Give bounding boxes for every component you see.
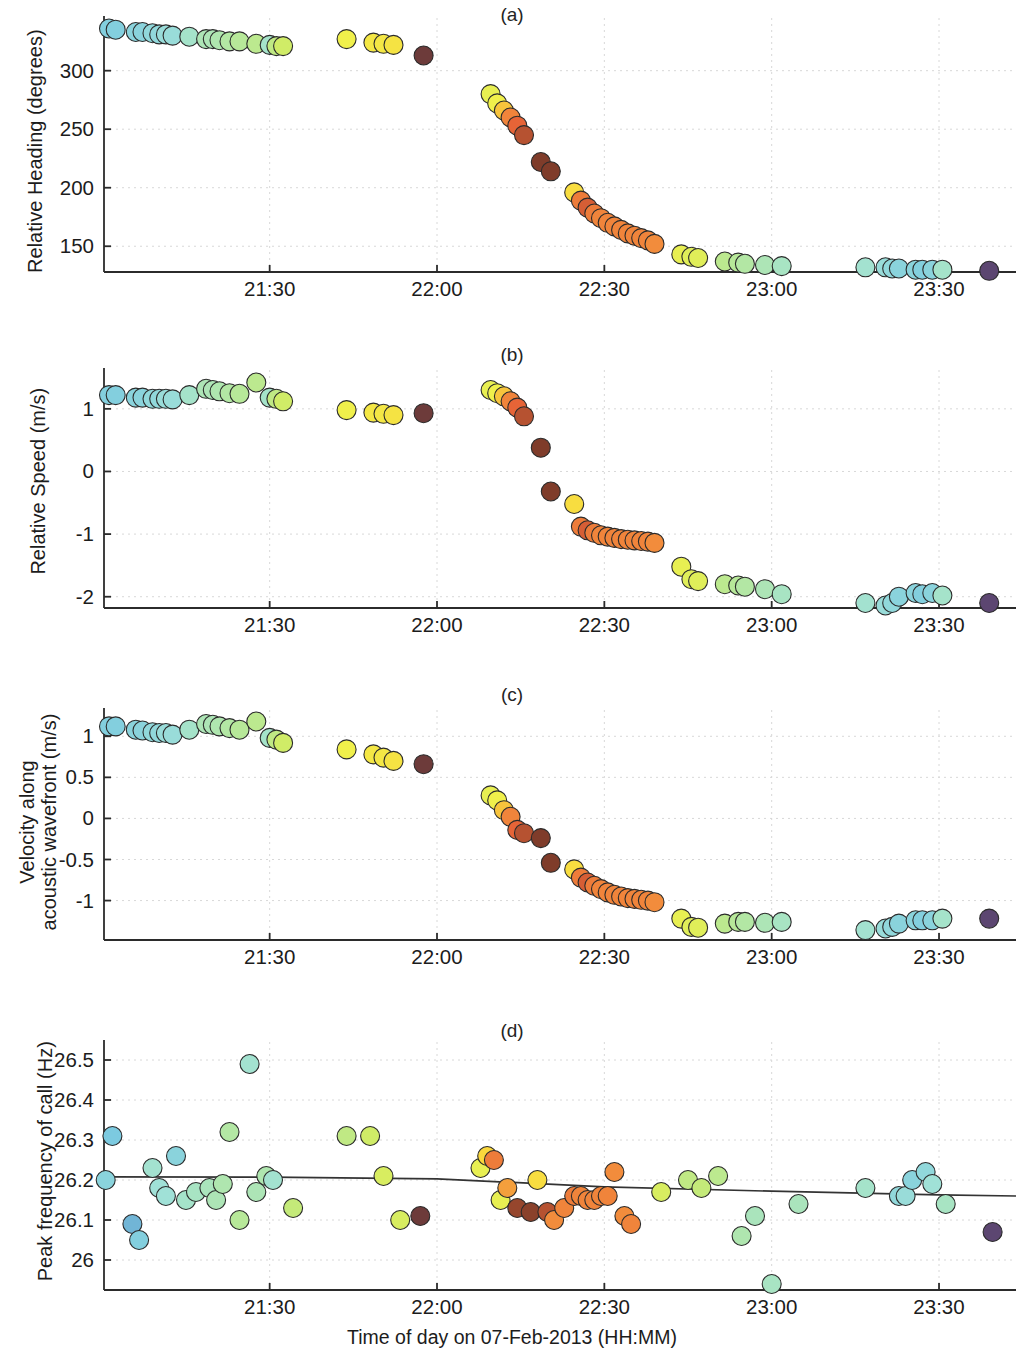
x-tick-label: 22:30 [579,613,630,636]
x-tick-label: 23:30 [913,1295,964,1318]
data-point [180,27,199,46]
data-point [889,259,908,278]
y-tick-label: 1 [83,397,94,420]
data-point [689,918,708,937]
x-tick-label: 23:00 [746,945,797,968]
x-tick-label: 21:30 [244,945,295,968]
data-point [106,386,125,405]
data-point [933,909,952,928]
y-tick-label: 0 [83,459,94,482]
data-point [772,257,791,276]
data-point [515,407,534,426]
panel-a: (a) Relative Heading (degrees) 300250200… [0,0,1024,310]
data-point [645,234,664,253]
data-point [652,1183,671,1202]
data-point [274,37,293,56]
data-point [337,30,356,49]
data-point [746,1207,765,1226]
y-tick-label: -0.5 [59,848,94,871]
data-point [361,1127,380,1146]
data-point [337,1127,356,1146]
data-point [933,586,952,605]
x-tick-label: 23:30 [913,945,964,968]
data-point [337,740,356,759]
x-tick-label: 22:30 [579,945,630,968]
data-point [247,373,266,392]
data-point [689,572,708,591]
x-tick-label: 23:00 [746,613,797,636]
y-tick-label: 200 [60,176,94,199]
x-tick-label: 22:00 [411,945,462,968]
data-point [605,1163,624,1182]
data-point [622,1215,641,1234]
data-point [180,386,199,405]
data-point [856,258,875,277]
data-point [762,1275,781,1294]
data-point [143,1159,162,1178]
data-point [230,32,249,51]
data-point [106,717,125,736]
data-point [856,1179,875,1198]
panel-c: (c) Velocity along acoustic wavefront (m… [0,680,1024,990]
x-tick-label: 23:00 [746,277,797,300]
data-point [130,1231,149,1250]
scatter-series [96,1055,1002,1294]
data-point [528,1171,547,1190]
x-tick-label: 23:30 [913,277,964,300]
data-point [735,912,754,931]
data-point [414,755,433,774]
data-point [756,256,775,275]
y-tick-label: 26.3 [54,1128,94,1151]
y-tick-label: 0 [83,806,94,829]
x-tick-label: 22:00 [411,613,462,636]
data-point [789,1195,808,1214]
data-point [756,580,775,599]
data-point [240,1055,259,1074]
data-point [180,720,199,739]
data-point [96,1171,115,1190]
data-point [498,1179,517,1198]
data-point [163,26,182,45]
panel-b-plot: 10-1-221:3022:0022:3023:0023:30 [0,340,1024,650]
data-point [889,587,908,606]
data-point [230,384,249,403]
panel-b: (b) Relative Speed (m/s) 10-1-221:3022:0… [0,340,1024,650]
panel-a-plot: 30025020015021:3022:0022:3023:0023:30 [0,0,1024,310]
x-tick-label: 21:30 [244,613,295,636]
panel-d: (d) Peak frequency of call (Hz) 26.526.4… [0,1010,1024,1353]
data-point [103,1127,122,1146]
data-point [541,162,560,181]
data-point [484,1151,503,1170]
y-tick-label: 150 [60,234,94,257]
x-tick-label: 23:30 [913,613,964,636]
x-tick-label: 22:00 [411,1295,462,1318]
data-point [689,249,708,268]
data-point [709,1167,728,1186]
data-point [933,260,952,279]
data-point [692,1179,711,1198]
data-point [220,1123,239,1142]
data-point [163,725,182,744]
data-point [923,1175,942,1194]
data-point [889,914,908,933]
data-point [541,853,560,872]
y-tick-label: -1 [76,522,94,545]
data-point [167,1147,186,1166]
figure-xlabel: Time of day on 07-Feb-2013 (HH:MM) [0,1326,1024,1349]
data-point [274,733,293,752]
data-point [856,921,875,940]
data-point [645,533,664,552]
data-point [374,1167,393,1186]
y-tick-label: 26.5 [54,1048,94,1071]
y-tick-label: 26.1 [54,1208,94,1231]
data-point [565,495,584,514]
data-point [284,1199,303,1218]
y-tick-label: 0.5 [66,765,95,788]
y-tick-label: -1 [76,889,94,912]
data-point [936,1195,955,1214]
data-point [531,829,550,848]
data-point [515,824,534,843]
data-point [531,438,550,457]
data-point [414,46,433,65]
y-tick-label: 26.2 [54,1168,94,1191]
